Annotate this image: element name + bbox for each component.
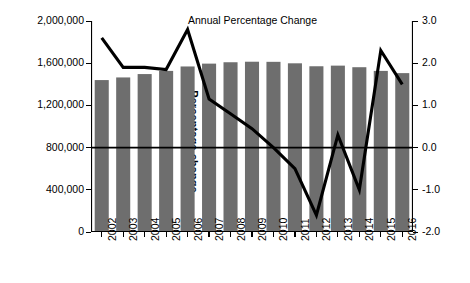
y-tick-label-right-1: 1.0 xyxy=(422,99,462,110)
x-tick-mark-2004 xyxy=(144,232,145,237)
y-tick-mark-right xyxy=(413,147,418,148)
bar-2004 xyxy=(138,74,152,232)
y-tick-label-left-2000000: 2,000,000 xyxy=(0,15,84,26)
bar-2002 xyxy=(95,80,109,232)
x-tick-label-2013: 2013 xyxy=(343,218,354,241)
x-tick-label-2006: 2006 xyxy=(193,218,204,241)
chart-container: Number of prisoners Percentage change An… xyxy=(0,0,470,283)
y-tick-label-left-1200000: 1,200,000 xyxy=(0,99,84,110)
y-tick-label-left-400000: 400,000 xyxy=(0,184,84,195)
x-tick-label-2005: 2005 xyxy=(171,218,182,241)
bar-2016 xyxy=(395,73,409,232)
x-tick-label-2016: 2016 xyxy=(407,218,418,241)
x-tick-mark-2015 xyxy=(380,232,381,237)
x-tick-label-2004: 2004 xyxy=(150,218,161,241)
x-tick-label-2003: 2003 xyxy=(128,218,139,241)
y-tick-mark-left xyxy=(86,189,91,190)
x-tick-mark-2011 xyxy=(294,232,295,237)
x-tick-mark-2014 xyxy=(359,232,360,237)
y-tick-mark-right xyxy=(413,21,418,22)
x-tick-mark-2009 xyxy=(251,232,252,237)
x-tick-mark-2002 xyxy=(101,232,102,237)
x-tick-label-2008: 2008 xyxy=(236,218,247,241)
y-tick-mark-left xyxy=(86,63,91,64)
x-tick-label-2002: 2002 xyxy=(107,218,118,241)
bar-2015 xyxy=(374,71,388,232)
x-tick-label-2011: 2011 xyxy=(300,218,311,241)
x-tick-mark-2016 xyxy=(402,232,403,237)
plot-svg xyxy=(91,21,413,232)
y-tick-label-left-800000: 800,000 xyxy=(0,142,84,153)
x-tick-mark-2006 xyxy=(187,232,188,237)
bar-2003 xyxy=(116,77,130,232)
y-tick-mark-left xyxy=(86,105,91,106)
y-tick-mark-right xyxy=(413,63,418,64)
x-tick-mark-2003 xyxy=(123,232,124,237)
y-tick-label-right-0: 0.0 xyxy=(422,142,462,153)
y-tick-mark-left xyxy=(86,147,91,148)
y-tick-label-right--2: -2.0 xyxy=(422,226,462,237)
x-tick-mark-2012 xyxy=(316,232,317,237)
x-tick-label-2012: 2012 xyxy=(321,218,332,241)
x-tick-label-2014: 2014 xyxy=(364,218,375,241)
plot-area xyxy=(91,21,413,232)
y-tick-mark-left xyxy=(86,21,91,22)
y-tick-mark-right xyxy=(413,105,418,106)
y-tick-label-left-0: 0 xyxy=(0,226,84,237)
x-tick-label-2009: 2009 xyxy=(257,218,268,241)
x-tick-mark-2013 xyxy=(337,232,338,237)
x-tick-label-2015: 2015 xyxy=(386,218,397,241)
x-tick-label-2010: 2010 xyxy=(278,218,289,241)
y-tick-mark-right xyxy=(413,189,418,190)
y-tick-label-left-1600000: 1,600,000 xyxy=(0,57,84,68)
y-tick-label-right--1: -1.0 xyxy=(422,184,462,195)
bar-2006 xyxy=(181,66,195,232)
y-tick-label-right-2: 2.0 xyxy=(422,57,462,68)
x-tick-label-2007: 2007 xyxy=(214,218,225,241)
y-tick-mark-left xyxy=(86,232,91,233)
x-tick-mark-2005 xyxy=(166,232,167,237)
bar-2005 xyxy=(159,71,173,232)
x-tick-mark-2010 xyxy=(273,232,274,237)
x-tick-mark-2007 xyxy=(208,232,209,237)
x-tick-mark-2008 xyxy=(230,232,231,237)
y-tick-label-right-3: 3.0 xyxy=(422,15,462,26)
